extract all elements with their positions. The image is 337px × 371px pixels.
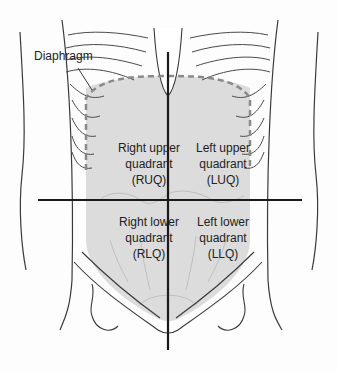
flank-right-outline (267, 20, 282, 330)
diaphragm-pointer (78, 68, 92, 90)
flank-left-outline (60, 20, 73, 330)
diaphragm-text: Diaphragm (34, 49, 93, 63)
luq-line1: Left upper (178, 140, 268, 156)
torso-left-outline (20, 32, 26, 270)
torso-right-outline (312, 32, 318, 270)
luq-label: Left upper quadrant (LUQ) (178, 140, 268, 188)
llq-line1: Left lower (178, 214, 268, 230)
luq-line3: (LUQ) (178, 172, 268, 188)
llq-line2: quadrant (178, 230, 268, 246)
luq-line2: quadrant (178, 156, 268, 172)
llq-line3: (LLQ) (178, 246, 268, 262)
abdominal-quadrants-diagram: Diaphragm Right upper quadrant (RUQ) Lef… (0, 0, 337, 371)
diaphragm-label: Diaphragm (34, 48, 93, 64)
llq-label: Left lower quadrant (LLQ) (178, 214, 268, 262)
